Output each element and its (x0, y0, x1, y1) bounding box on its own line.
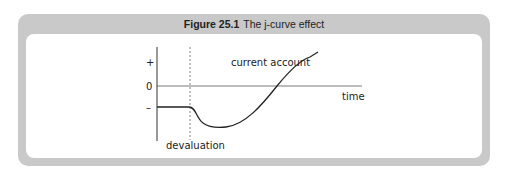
series-label-current-account: current account (231, 57, 310, 68)
x-axis-label: time (342, 91, 365, 102)
annotation-devaluation: devaluation (166, 140, 225, 151)
j-curve-chart: + 0 – time current account devaluation (0, 0, 507, 193)
y-tick-minus: – (146, 102, 151, 113)
y-tick-plus: + (146, 57, 154, 68)
y-tick-zero: 0 (146, 81, 152, 92)
